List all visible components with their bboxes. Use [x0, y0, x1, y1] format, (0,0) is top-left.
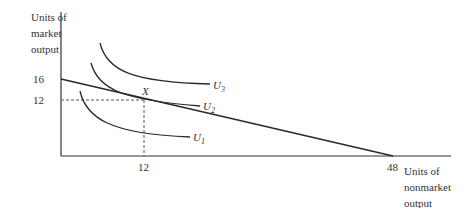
y-tick-12: 12 [33, 94, 44, 106]
u3-subscript: 3 [220, 85, 225, 94]
indifference-curve-u1 [80, 91, 190, 137]
y-tick-16: 16 [33, 73, 45, 85]
x-tick-48: 48 [387, 161, 399, 173]
u2-subscript: 2 [211, 106, 215, 115]
u1-label: U1 [193, 131, 205, 146]
x-tick-12: 12 [138, 161, 149, 173]
chart-canvas: 16 12 12 48 X U3 U2 U1 [0, 0, 466, 208]
point-x-label: X [141, 85, 150, 97]
budget-line [61, 79, 393, 156]
u1-subscript: 1 [201, 137, 205, 146]
indifference-curve-u3 [100, 43, 210, 84]
u3-label: U3 [213, 79, 225, 94]
